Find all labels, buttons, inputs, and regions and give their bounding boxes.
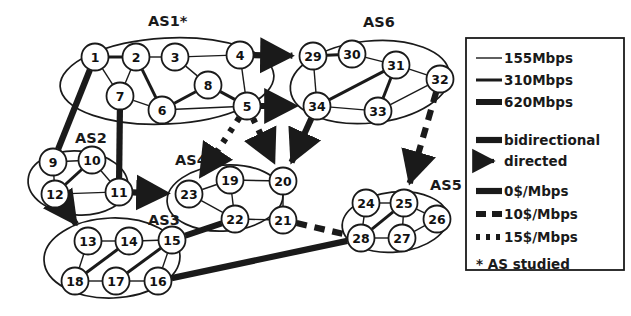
router-node-20[interactable]: 20 bbox=[270, 168, 297, 195]
router-node-19[interactable]: 19 bbox=[217, 167, 244, 194]
legend-label-directed: directed bbox=[504, 153, 567, 169]
router-node-26[interactable]: 26 bbox=[424, 206, 451, 233]
node-label-29: 29 bbox=[304, 49, 321, 64]
node-label-4: 4 bbox=[236, 48, 245, 63]
node-label-34: 34 bbox=[308, 99, 326, 114]
as-label-as5: AS5 bbox=[430, 177, 462, 193]
node-label-11: 11 bbox=[110, 185, 127, 200]
link-31-33 bbox=[383, 78, 391, 98]
node-label-9: 9 bbox=[49, 155, 58, 170]
link-24-28 bbox=[363, 217, 364, 224]
link-2-7 bbox=[125, 70, 130, 83]
node-label-1: 1 bbox=[91, 50, 100, 65]
router-node-12[interactable]: 12 bbox=[42, 181, 69, 208]
legend-label-310Mbps: 310Mbps bbox=[504, 72, 573, 88]
router-node-28[interactable]: 28 bbox=[348, 225, 375, 252]
node-label-3: 3 bbox=[171, 50, 180, 65]
node-label-10: 10 bbox=[83, 153, 101, 168]
link-1-7 bbox=[103, 69, 113, 84]
link-13-18 bbox=[79, 254, 83, 267]
topology-canvas: 1234567891011121314151617181920212223242… bbox=[0, 0, 631, 316]
link-2-6 bbox=[142, 70, 156, 98]
router-node-1[interactable]: 1 bbox=[82, 44, 109, 71]
as-label-as2: AS2 bbox=[75, 130, 107, 146]
legend-label-10Mbps: 10$/Mbps bbox=[504, 206, 578, 222]
router-node-31[interactable]: 31 bbox=[383, 52, 410, 79]
router-node-32[interactable]: 32 bbox=[427, 66, 454, 93]
router-node-3[interactable]: 3 bbox=[162, 44, 189, 71]
link-31-34 bbox=[329, 71, 383, 99]
link-33-34 bbox=[331, 107, 364, 110]
link-32-33 bbox=[390, 85, 427, 104]
node-label-32: 32 bbox=[431, 72, 448, 87]
router-node-27[interactable]: 27 bbox=[389, 225, 416, 252]
router-node-34[interactable]: 34 bbox=[304, 93, 331, 120]
legend-footnote: * AS studied bbox=[476, 256, 570, 272]
link-16-28 bbox=[172, 241, 348, 278]
network-topology-figure: 1234567891011121314151617181920212223242… bbox=[0, 0, 631, 316]
node-label-5: 5 bbox=[243, 99, 252, 114]
router-node-30[interactable]: 30 bbox=[339, 41, 366, 68]
node-label-18: 18 bbox=[66, 274, 83, 289]
as-label-as4: AS4 bbox=[175, 152, 207, 168]
router-node-33[interactable]: 33 bbox=[365, 98, 392, 125]
node-label-31: 31 bbox=[387, 58, 404, 73]
router-node-25[interactable]: 25 bbox=[391, 190, 418, 217]
router-node-2[interactable]: 2 bbox=[123, 44, 150, 71]
link-6-5 bbox=[176, 107, 233, 110]
router-node-11[interactable]: 11 bbox=[106, 179, 133, 206]
node-label-24: 24 bbox=[357, 196, 375, 211]
node-label-7: 7 bbox=[116, 89, 125, 104]
router-node-8[interactable]: 8 bbox=[195, 72, 222, 99]
router-node-16[interactable]: 16 bbox=[145, 268, 172, 295]
link-6-7 bbox=[133, 100, 148, 105]
link-34-20 bbox=[292, 119, 312, 163]
router-node-24[interactable]: 24 bbox=[353, 190, 380, 217]
node-label-19: 19 bbox=[221, 173, 238, 188]
node-label-6: 6 bbox=[158, 103, 167, 118]
link-26-27 bbox=[414, 226, 424, 232]
router-node-10[interactable]: 10 bbox=[79, 147, 106, 174]
link-11-23 bbox=[133, 192, 168, 193]
link-9-10 bbox=[67, 161, 78, 162]
node-label-8: 8 bbox=[204, 78, 213, 93]
router-node-9[interactable]: 9 bbox=[40, 149, 67, 176]
node-label-30: 30 bbox=[343, 47, 361, 62]
link-29-30 bbox=[327, 55, 338, 56]
link-10-12 bbox=[65, 170, 81, 185]
router-node-17[interactable]: 17 bbox=[103, 268, 130, 295]
router-node-5[interactable]: 5 bbox=[234, 93, 261, 120]
node-label-28: 28 bbox=[352, 231, 369, 246]
link-25-28 bbox=[372, 212, 393, 229]
router-node-29[interactable]: 29 bbox=[300, 43, 327, 70]
router-node-23[interactable]: 23 bbox=[176, 181, 203, 208]
link-30-31 bbox=[366, 57, 383, 61]
router-node-14[interactable]: 14 bbox=[116, 228, 143, 255]
node-label-13: 13 bbox=[79, 234, 96, 249]
link-15-22 bbox=[185, 223, 221, 235]
router-node-4[interactable]: 4 bbox=[227, 42, 254, 69]
router-node-6[interactable]: 6 bbox=[149, 97, 176, 124]
legend: 155Mbps310Mbps620Mbpsbidirectionaldirect… bbox=[466, 38, 624, 272]
node-label-12: 12 bbox=[46, 187, 63, 202]
legend-label-155Mbps: 155Mbps bbox=[504, 50, 573, 66]
node-label-20: 20 bbox=[274, 174, 292, 189]
link-3-4 bbox=[189, 55, 226, 56]
as-label-as3: AS3 bbox=[148, 212, 180, 228]
router-node-7[interactable]: 7 bbox=[107, 83, 134, 110]
node-label-27: 27 bbox=[393, 231, 410, 246]
link-7-11 bbox=[119, 110, 120, 178]
node-label-14: 14 bbox=[120, 234, 138, 249]
router-node-22[interactable]: 22 bbox=[222, 206, 249, 233]
router-node-21[interactable]: 21 bbox=[270, 207, 297, 234]
node-label-23: 23 bbox=[180, 187, 197, 202]
node-label-17: 17 bbox=[107, 274, 124, 289]
node-label-16: 16 bbox=[149, 274, 167, 289]
node-label-15: 15 bbox=[163, 233, 180, 248]
legend-label-620Mbps: 620Mbps bbox=[504, 94, 573, 110]
router-node-13[interactable]: 13 bbox=[75, 228, 102, 255]
link-32-25 bbox=[410, 92, 436, 183]
router-node-18[interactable]: 18 bbox=[62, 268, 89, 295]
link-4-5 bbox=[242, 69, 245, 92]
router-node-15[interactable]: 15 bbox=[159, 227, 186, 254]
